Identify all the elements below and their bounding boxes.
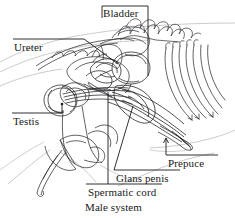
label-ureter: Ureter	[14, 41, 43, 53]
label-bladder: Bladder	[103, 7, 139, 19]
label-testis: Testis	[13, 115, 39, 127]
figure-caption: Male system	[85, 201, 142, 213]
label-prepuce: Prepuce	[168, 157, 204, 169]
label-spermatic-cord: Spermatic cord	[88, 186, 156, 198]
anatomy-figure: Bladder Ureter Testis Prepuce Glans peni…	[0, 0, 235, 218]
label-glans-penis: Glans penis	[116, 172, 169, 184]
